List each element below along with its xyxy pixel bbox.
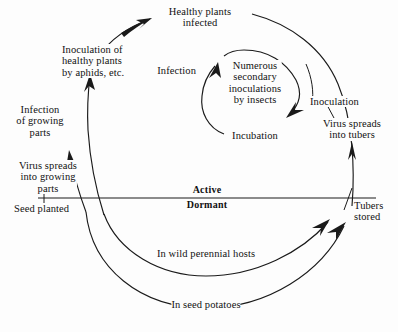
label-virus-spreads-growing: Virus spreads into growing parts <box>19 160 77 194</box>
label-healthy-plants-infected: Healthy plants infected <box>169 6 231 29</box>
label-inoculation: Inoculation <box>310 96 359 107</box>
arrow-seed-potatoes <box>327 222 346 240</box>
arc-loop-entry <box>224 50 244 56</box>
disease-cycle-figure: .ln { fill:none; stroke:#1a1a1a; stroke-… <box>0 0 398 332</box>
label-inoculation-aphids: Inoculation of healthy plants by aphids,… <box>62 44 124 78</box>
arc-wild-perennial-hosts <box>104 214 328 276</box>
label-dormant: Dormant <box>187 199 228 210</box>
label-tubers-stored: Tubers stored <box>354 200 383 223</box>
label-infection-growing-parts: Infection of growing parts <box>16 104 63 138</box>
arrow-virus-into-tubers <box>348 142 356 160</box>
label-incubation: Incubation <box>232 130 278 141</box>
label-seed-planted: Seed planted <box>14 203 69 214</box>
label-wild-perennial-hosts: In wild perennial hosts <box>157 248 255 259</box>
arrow-infection <box>209 62 221 78</box>
label-infection: Infection <box>157 65 196 76</box>
tick-tubers-stored <box>344 188 352 210</box>
label-active: Active <box>193 184 222 195</box>
label-virus-spreads-tubers: Virus spreads into tubers <box>323 118 381 141</box>
label-in-seed-potatoes: In seed potatoes <box>171 299 240 310</box>
arc-in-seed-potatoes <box>86 212 344 308</box>
arc-growing-to-aphids <box>88 76 104 215</box>
label-secondary-inoculations: Numerous secondary inoculations by insec… <box>229 60 282 106</box>
arrow-incubation <box>286 102 304 118</box>
arrow-wild-hosts <box>312 219 330 236</box>
